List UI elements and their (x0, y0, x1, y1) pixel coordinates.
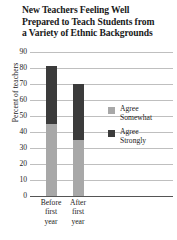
chart-title-line-2: Prepared to Teach Students from (22, 16, 154, 27)
bar-segment (46, 66, 57, 124)
chart-legend: AgreeSomewhatAgreeStrongly (108, 106, 176, 152)
legend-label: AgreeSomewhat (120, 105, 176, 123)
y-axis-tick-label: 10 (3, 176, 27, 184)
bar-stack (73, 84, 84, 196)
legend-label-line: Strongly (120, 137, 176, 146)
y-axis-tick-label: 0 (3, 192, 27, 200)
chart-title-line-1: New Teachers Feeling Well (22, 4, 129, 15)
y-axis-tick-labels: 9080706050403020100 (0, 52, 27, 196)
legend-item: AgreeSomewhat (108, 106, 176, 124)
legend-label-line: Somewhat (120, 114, 176, 123)
bar-segment (73, 140, 84, 196)
chart-container: New Teachers Feeling Well Prepared to Te… (0, 0, 177, 240)
legend-label: AgreeStrongly (120, 128, 176, 146)
x-axis-category-labels: BeforefirstyearAfterfirstyear (30, 198, 173, 238)
y-axis-tick-label: 70 (3, 80, 27, 88)
chart-title-line-3: a Variety of Ethnic Backgrounds (22, 27, 153, 38)
x-axis-category-label-line: After (56, 198, 100, 207)
y-axis-tick-label: 50 (3, 112, 27, 120)
y-axis-tick-label: 40 (3, 128, 27, 136)
y-axis-tick-label: 90 (3, 48, 27, 56)
x-axis-category-label-line: year (56, 217, 100, 226)
bar-stack (46, 66, 57, 196)
x-axis-category-label: Afterfirstyear (56, 198, 100, 226)
axis-baseline (30, 196, 173, 197)
y-axis-tick-label: 20 (3, 160, 27, 168)
legend-swatch (108, 107, 115, 114)
y-axis-tick-label: 30 (3, 144, 27, 152)
bar-segment (73, 84, 84, 140)
y-axis-tick-label: 60 (3, 96, 27, 104)
bar-segment (46, 124, 57, 196)
x-axis-category-label-line: first (56, 207, 100, 216)
legend-swatch (108, 130, 115, 137)
y-axis-tick-label: 80 (3, 64, 27, 72)
chart-title: New Teachers Feeling Well Prepared to Te… (22, 4, 174, 39)
gridline (30, 52, 173, 53)
legend-item: AgreeStrongly (108, 129, 176, 147)
